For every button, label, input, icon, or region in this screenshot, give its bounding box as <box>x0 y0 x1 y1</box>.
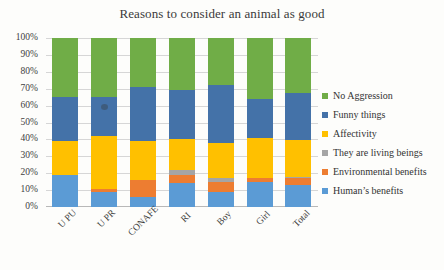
legend-item[interactable]: Human’s benefits <box>322 181 442 200</box>
y-axis-tick-label: 60% <box>21 101 38 111</box>
bar-segment[interactable] <box>91 192 117 207</box>
bar-segment[interactable] <box>169 90 195 139</box>
y-axis-tick-label: 0% <box>25 202 38 212</box>
legend-label: Affectivity <box>333 128 377 139</box>
legend-swatch-icon <box>322 93 328 99</box>
x-axis: U PUU PRCONAFERIBoyGirlTotal <box>46 209 318 253</box>
bar-segment[interactable] <box>52 38 78 97</box>
legend-label: Human’s benefits <box>333 185 403 196</box>
bar-segment[interactable] <box>285 185 311 207</box>
bar-segment[interactable] <box>169 38 195 90</box>
legend-label: Environmental benefits <box>333 166 427 177</box>
y-axis-tick-label: 40% <box>21 135 38 145</box>
x-axis-tick-label: Boy <box>215 209 233 227</box>
bar-segment[interactable] <box>91 38 117 97</box>
bar-segment[interactable] <box>285 178 311 185</box>
bar-segment[interactable] <box>52 175 78 207</box>
x-axis-tick-label: CONAFE <box>126 204 160 238</box>
bar-segment[interactable] <box>247 182 273 207</box>
x-axis-tick-label: RI <box>179 210 193 224</box>
bar-segment[interactable] <box>130 87 156 141</box>
bar-segment[interactable] <box>285 38 311 93</box>
legend-item[interactable]: Funny things <box>322 105 442 124</box>
bar-column[interactable] <box>208 38 234 207</box>
bar-group <box>46 38 318 207</box>
scan-artifact <box>101 104 108 110</box>
legend-item[interactable]: No Aggression <box>322 86 442 105</box>
bar-column[interactable] <box>91 38 117 207</box>
x-axis-tick-label: U PR <box>96 208 118 230</box>
x-axis-tick-label: U PU <box>57 208 79 230</box>
legend-label: They are living beings <box>333 147 423 158</box>
legend-label: Funny things <box>333 109 386 120</box>
legend-item[interactable]: They are living beings <box>322 143 442 162</box>
bar-column[interactable] <box>247 38 273 207</box>
bar-segment[interactable] <box>208 182 234 192</box>
legend-swatch-icon <box>322 188 328 194</box>
legend-item[interactable]: Environmental benefits <box>322 162 442 181</box>
bar-segment[interactable] <box>208 85 234 142</box>
bar-segment[interactable] <box>285 140 311 176</box>
bar-segment[interactable] <box>208 143 234 178</box>
legend-label: No Aggression <box>333 90 393 101</box>
y-axis-tick-label: 90% <box>21 50 38 60</box>
y-axis-tick-label: 80% <box>21 67 38 77</box>
bar-segment[interactable] <box>208 38 234 85</box>
x-axis-tick-label: Total <box>291 208 312 229</box>
bar-segment[interactable] <box>169 175 195 183</box>
chart-legend: No AggressionFunny thingsAffectivityThey… <box>322 86 442 200</box>
legend-swatch-icon <box>322 131 328 137</box>
y-axis: 0%10%20%30%40%50%60%70%80%90%100% <box>0 38 42 207</box>
bar-segment[interactable] <box>208 192 234 207</box>
y-axis-tick-label: 50% <box>21 118 38 128</box>
y-axis-tick-label: 30% <box>21 152 38 162</box>
legend-item[interactable]: Affectivity <box>322 124 442 143</box>
legend-swatch-icon <box>322 150 328 156</box>
bar-segment[interactable] <box>91 136 117 189</box>
bar-segment[interactable] <box>285 93 311 140</box>
bar-segment[interactable] <box>91 97 117 136</box>
bar-segment[interactable] <box>130 38 156 87</box>
bar-column[interactable] <box>130 38 156 207</box>
y-axis-tick-label: 100% <box>16 33 38 43</box>
y-axis-tick-label: 10% <box>21 185 38 195</box>
bar-segment[interactable] <box>247 38 273 99</box>
bar-column[interactable] <box>285 38 311 207</box>
bar-segment[interactable] <box>130 180 156 197</box>
y-axis-tick-label: 20% <box>21 168 38 178</box>
chart-title: Reasons to consider an animal as good <box>0 6 444 22</box>
legend-swatch-icon <box>322 169 328 175</box>
bar-segment[interactable] <box>247 138 273 179</box>
y-axis-tick-label: 70% <box>21 84 38 94</box>
bar-column[interactable] <box>169 38 195 207</box>
bar-segment[interactable] <box>52 141 78 175</box>
chart-container: Reasons to consider an animal as good 0%… <box>0 0 444 270</box>
bar-segment[interactable] <box>169 183 195 207</box>
plot-area <box>46 38 318 207</box>
bar-column[interactable] <box>52 38 78 207</box>
bar-segment[interactable] <box>169 139 195 169</box>
x-axis-tick-label: Girl <box>254 209 272 227</box>
bar-segment[interactable] <box>247 99 273 138</box>
bar-segment[interactable] <box>130 141 156 180</box>
legend-swatch-icon <box>322 112 328 118</box>
bar-segment[interactable] <box>52 97 78 141</box>
